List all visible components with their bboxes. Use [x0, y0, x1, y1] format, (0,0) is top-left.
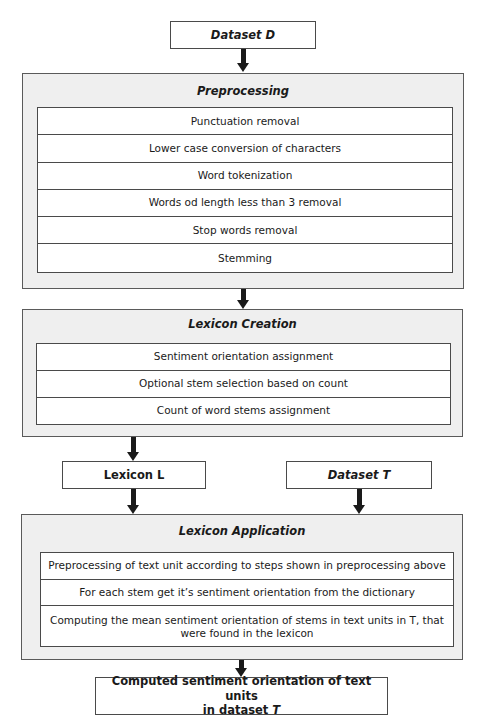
dataset-t-label: Dataset T — [328, 468, 391, 482]
lexicon-creation-step: Optional stem selection based on count — [37, 371, 450, 398]
lexicon-application-step: Computing the mean sentiment orientation… — [41, 606, 453, 648]
lexicon-l-box: Lexicon L — [62, 461, 206, 489]
preprocessing-step: Word tokenization — [38, 163, 452, 190]
output-box: Computed sentiment orientation of text u… — [95, 677, 388, 715]
output-label-prefix: in dataset — [203, 703, 273, 717]
preprocessing-step: Words od length less than 3 removal — [38, 190, 452, 217]
output-label-line1: Computed sentiment orientation of text u… — [96, 674, 387, 704]
lexicon-creation-step: Sentiment orientation assignment — [37, 344, 450, 371]
lexicon-creation-steps: Sentiment orientation assignment Optiona… — [36, 343, 451, 425]
preprocessing-group: Preprocessing Punctuation removal Lower … — [22, 73, 464, 289]
lexicon-application-group: Lexicon Application Preprocessing of tex… — [21, 514, 463, 660]
lexicon-application-title: Lexicon Application — [22, 524, 462, 538]
lexicon-creation-step: Count of word stems assignment — [37, 398, 450, 424]
lexicon-creation-group: Lexicon Creation Sentiment orientation a… — [22, 309, 463, 437]
preprocessing-title: Preprocessing — [23, 84, 463, 98]
lexicon-l-label: Lexicon L — [104, 468, 165, 482]
lexicon-application-steps: Preprocessing of text unit according to … — [40, 552, 454, 647]
preprocessing-step: Punctuation removal — [38, 108, 452, 135]
dataset-t-box: Dataset T — [286, 461, 432, 489]
lexicon-application-step: Preprocessing of text unit according to … — [41, 553, 453, 580]
preprocessing-step: Lower case conversion of characters — [38, 135, 452, 162]
dataset-d-box: Dataset D — [170, 21, 316, 49]
output-label-line2: in dataset T — [203, 703, 280, 718]
lexicon-application-step: For each stem get it’s sentiment orienta… — [41, 580, 453, 606]
preprocessing-step: Stemming — [38, 244, 452, 271]
preprocessing-steps: Punctuation removal Lower case conversio… — [37, 107, 453, 273]
dataset-d-label: Dataset D — [211, 28, 275, 42]
lexicon-creation-title: Lexicon Creation — [23, 317, 462, 331]
preprocessing-step: Stop words removal — [38, 217, 452, 244]
output-label-var: T — [272, 703, 280, 717]
